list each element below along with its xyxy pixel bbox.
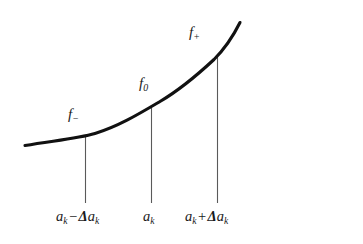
axis-label-right-operator: + — [197, 208, 208, 224]
curve-label-f-zero: f0 — [139, 76, 148, 93]
curve-label-f-plus: f+ — [189, 25, 200, 42]
axis-label-a-minus-delta: ak−Δak — [56, 209, 99, 226]
axis-label-left-sub2: k — [95, 215, 99, 226]
axis-label-a-plus-delta: ak+Δak — [185, 209, 228, 226]
curve-label-f-zero-sub: 0 — [143, 82, 148, 93]
diagram-canvas — [0, 0, 363, 244]
axis-label-center-sub: k — [150, 215, 154, 226]
figure-container: f− f0 f+ ak−Δak ak ak+Δak — [0, 0, 363, 244]
axis-label-left-operator: − — [68, 208, 79, 224]
axis-label-left-var2: a — [88, 208, 95, 224]
axis-label-left-sub: k — [63, 215, 67, 226]
axis-label-right-sub2: k — [224, 215, 228, 226]
curve-label-f-minus: f− — [68, 107, 79, 124]
axis-label-right-sub: k — [192, 215, 196, 226]
axis-label-right-delta: Δ — [208, 208, 217, 224]
curve-label-f-minus-sub: − — [72, 113, 79, 124]
axis-label-left-delta: Δ — [79, 208, 88, 224]
axis-label-right-var2: a — [217, 208, 224, 224]
curve-label-f-plus-sub: + — [193, 31, 200, 42]
axis-label-a-center: ak — [143, 209, 155, 226]
function-curve — [25, 23, 240, 146]
